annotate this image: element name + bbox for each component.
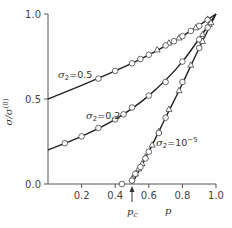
circle-marker [180,79,186,85]
curve-σ2=0.5 [48,14,216,99]
x-tick-label: 0.2 [74,190,90,201]
circle-marker [196,23,202,29]
circle-marker [138,56,144,62]
circle-marker [180,59,186,65]
circle-marker [96,76,102,82]
circle-marker [171,38,177,44]
curves [48,14,216,184]
pc-arrow-icon [130,186,135,202]
circle-marker [138,164,144,170]
circle-marker [119,181,125,187]
x-tick-label: 1.0 [208,190,224,201]
curve-label-sigma-0.5: σ2=0.5 [58,69,92,82]
circle-marker [143,156,149,162]
markers [62,16,214,187]
triangle-marker [149,142,155,147]
circle-marker [112,68,118,74]
y-tick-label: 0.0 [25,179,41,190]
circle-marker [129,178,135,184]
x-ticks: 0.20.40.60.81.0 [74,184,224,201]
curve-label-sigma-1e-5: σ2=10−5 [156,136,198,150]
circle-marker [121,112,127,118]
circle-marker [133,171,139,177]
circle-marker [129,105,135,111]
circle-marker [156,130,162,136]
circle-marker [163,115,169,121]
circle-marker [146,52,152,58]
circle-marker [163,79,169,85]
circle-marker [163,43,169,49]
curve-σ2=0.2 [48,14,216,150]
triangle-marker [200,31,206,36]
x-tick-label: 0.6 [141,190,157,201]
conductivity-chart: 0.00.51.0 0.20.40.60.81.0 σ/σ(0) σ2=0.5 … [0,0,232,228]
circle-marker [146,149,152,155]
triangle-marker [176,87,182,92]
x-tick-label: 0.8 [174,190,190,201]
circle-marker [62,140,68,146]
circle-marker [180,33,186,39]
pc-label: pc [127,206,138,219]
circle-marker [205,25,211,31]
circle-marker [188,28,194,34]
circle-marker [196,45,202,51]
circle-marker [79,134,85,140]
circle-marker [146,93,152,99]
x-axis-label: p [165,205,172,216]
y-ticks: 0.00.51.0 [25,9,48,190]
circle-marker [96,125,102,131]
y-tick-label: 0.5 [25,94,41,105]
x-tick-label: 0.4 [107,190,123,201]
y-tick-label: 1.0 [25,9,41,20]
y-axis-label: σ/σ(0) [2,98,14,125]
circle-marker [129,61,135,67]
